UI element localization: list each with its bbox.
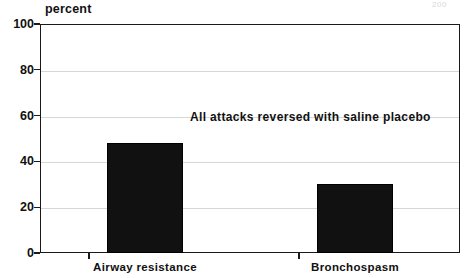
y-axis-tick-label: 40 xyxy=(2,155,34,168)
y-axis-tick-label: 0 xyxy=(2,247,34,260)
x-axis-category-label: Airway resistance xyxy=(93,261,197,273)
y-axis-tick xyxy=(34,23,40,24)
y-axis-tick xyxy=(34,207,40,208)
y-axis: 020406080100 xyxy=(0,0,34,278)
page-number-artifact: 200 xyxy=(432,1,454,8)
x-axis-category-label: Bronchospasm xyxy=(311,261,399,273)
y-axis-tick-label: 60 xyxy=(2,110,34,123)
y-axis-tick-label: 80 xyxy=(2,64,34,77)
gridline xyxy=(41,71,459,72)
y-axis-tick xyxy=(34,115,40,116)
y-axis-tick xyxy=(34,69,40,70)
y-axis-unit-label: percent xyxy=(45,2,92,16)
x-axis-tick xyxy=(88,253,89,259)
bar-chart: 200 percent 020406080100 Airway resistan… xyxy=(0,0,469,278)
bar xyxy=(317,184,393,253)
y-axis-tick xyxy=(34,161,40,162)
chart-annotation: All attacks reversed with saline placebo xyxy=(190,110,431,124)
bar xyxy=(107,143,183,253)
y-axis-tick-label: 100 xyxy=(2,18,34,31)
plot-area xyxy=(40,24,460,253)
x-axis-tick xyxy=(298,253,299,259)
gridline xyxy=(41,208,459,209)
gridline xyxy=(41,162,459,163)
y-axis-tick xyxy=(34,252,40,253)
y-axis-tick-label: 20 xyxy=(2,201,34,214)
